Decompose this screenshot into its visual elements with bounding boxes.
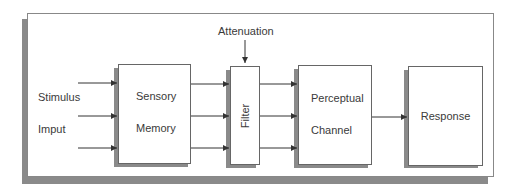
connector-arrows [0, 0, 510, 192]
